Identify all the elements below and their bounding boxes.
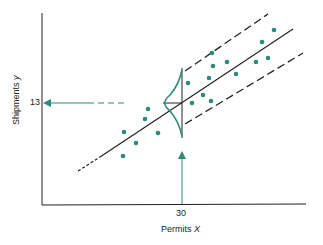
regression-line-dashed-start (78, 157, 100, 171)
data-point (121, 154, 126, 159)
x-axis (42, 204, 306, 205)
data-point (186, 81, 191, 86)
regression-line (100, 29, 293, 157)
x-axis-label-text: Permits (161, 224, 192, 234)
data-point (207, 76, 212, 81)
data-point (234, 72, 239, 77)
data-points (121, 28, 277, 159)
x-axis-label: Permits X (161, 224, 200, 234)
regression-diagram (0, 0, 323, 245)
data-point (134, 141, 139, 146)
y-axis-variable: y (11, 75, 21, 80)
data-point (272, 28, 277, 33)
data-point (210, 51, 215, 56)
data-point (143, 117, 148, 122)
y-tick-label: 13 (30, 97, 40, 107)
data-point (201, 93, 206, 98)
data-point (225, 60, 230, 65)
y-axis-label: Shipments y (11, 75, 21, 125)
data-point (190, 101, 195, 106)
data-point (122, 130, 127, 135)
data-point (260, 40, 265, 45)
data-point (156, 131, 161, 136)
x-tick-label: 30 (176, 208, 186, 218)
data-point (211, 64, 216, 69)
x-axis-variable: X (194, 224, 200, 234)
data-point (146, 107, 151, 112)
arrow-left-icon (43, 99, 51, 107)
data-point (266, 56, 271, 61)
y-axis-label-text: Shipments (11, 82, 21, 125)
data-point (254, 60, 259, 65)
arrow-up-icon (178, 151, 186, 159)
data-point (209, 99, 214, 104)
